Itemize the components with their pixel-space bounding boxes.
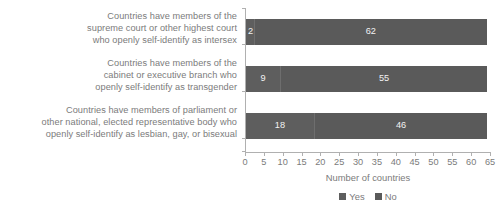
x-axis-tick-label: 20 bbox=[315, 157, 325, 167]
x-axis-tick bbox=[490, 152, 491, 156]
bar-segment-yes[interactable]: 9 bbox=[246, 66, 280, 92]
bar-value-label: 18 bbox=[275, 121, 285, 130]
x-axis-tick-label: 0 bbox=[242, 157, 247, 167]
category-label-line: Countries have members of the bbox=[0, 57, 237, 69]
x-axis-tick-label: 10 bbox=[278, 157, 288, 167]
y-axis-tick bbox=[242, 138, 245, 139]
x-axis-tick-label: 50 bbox=[428, 157, 438, 167]
x-axis-tick bbox=[245, 152, 246, 156]
x-axis-tick bbox=[302, 152, 303, 156]
category-label: Countries have members of parliament oro… bbox=[0, 104, 237, 141]
category-label-line: Countries have members of parliament or bbox=[0, 104, 237, 116]
legend-item-yes[interactable]: Yes bbox=[339, 192, 364, 201]
category-label-line: who openly self-identify as intersex bbox=[0, 34, 237, 46]
x-axis-tick bbox=[320, 152, 321, 156]
x-axis-tick bbox=[264, 152, 265, 156]
legend-item-no[interactable]: No bbox=[375, 192, 397, 201]
y-axis-tick bbox=[242, 44, 245, 45]
x-axis-tick bbox=[433, 152, 434, 156]
x-axis-tick-label: 60 bbox=[466, 157, 476, 167]
legend-label: No bbox=[385, 192, 397, 201]
bar-segment-no[interactable]: 46 bbox=[314, 113, 487, 139]
category-label-line: openly self-identify as transgender bbox=[0, 81, 237, 93]
x-axis-tick-label: 40 bbox=[391, 157, 401, 167]
bar-row[interactable]: 1846 bbox=[246, 113, 487, 139]
category-label: Countries have members of thesupreme cou… bbox=[0, 10, 237, 47]
x-axis-tick-label: 55 bbox=[447, 157, 457, 167]
x-axis-tick bbox=[358, 152, 359, 156]
x-axis-tick bbox=[283, 152, 284, 156]
x-axis-tick bbox=[452, 152, 453, 156]
bar-value-label: 46 bbox=[396, 121, 406, 130]
bar-value-label: 55 bbox=[379, 74, 389, 83]
category-label-line: Countries have members of the bbox=[0, 10, 237, 22]
x-axis-tick-label: 5 bbox=[261, 157, 266, 167]
y-axis-tick bbox=[242, 91, 245, 92]
x-axis-tick bbox=[396, 152, 397, 156]
category-label-line: other national, elected representative b… bbox=[0, 116, 237, 128]
x-axis-title: Number of countries bbox=[245, 172, 491, 183]
category-axis-labels: Countries have members of thesupreme cou… bbox=[0, 0, 237, 152]
bar-segment-no[interactable]: 55 bbox=[280, 66, 487, 92]
y-axis-tick bbox=[242, 8, 245, 9]
x-axis-tick bbox=[339, 152, 340, 156]
x-axis-tick-label: 25 bbox=[334, 157, 344, 167]
x-axis-tick bbox=[415, 152, 416, 156]
chart-legend: YesNo bbox=[245, 192, 491, 201]
stacked-bar-chart: Countries have members of thesupreme cou… bbox=[0, 0, 500, 220]
bar-value-label: 62 bbox=[366, 27, 376, 36]
bar-segment-no[interactable]: 62 bbox=[254, 19, 488, 45]
bar-value-label: 2 bbox=[248, 27, 253, 36]
x-axis-tick bbox=[471, 152, 472, 156]
bar-segment-yes[interactable]: 18 bbox=[246, 113, 314, 139]
category-label-line: openly self-identify as lesbian, gay, or… bbox=[0, 128, 237, 140]
bar-segment-yes[interactable]: 2 bbox=[246, 19, 254, 45]
x-axis-tick-label: 15 bbox=[296, 157, 306, 167]
x-axis-tick-label: 45 bbox=[409, 157, 419, 167]
x-axis-tick-label: 35 bbox=[372, 157, 382, 167]
legend-swatch-icon bbox=[339, 193, 346, 200]
category-label: Countries have members of thecabinet or … bbox=[0, 57, 237, 94]
plot-area: 2629551846 bbox=[245, 8, 490, 152]
category-label-line: cabinet or executive branch who bbox=[0, 69, 237, 81]
legend-label: Yes bbox=[349, 192, 364, 201]
category-label-line: supreme court or other highest court bbox=[0, 22, 237, 34]
legend-swatch-icon bbox=[375, 193, 382, 200]
bar-value-label: 9 bbox=[260, 74, 265, 83]
bar-row[interactable]: 262 bbox=[246, 19, 487, 45]
bar-row[interactable]: 955 bbox=[246, 66, 487, 92]
x-axis-tick bbox=[377, 152, 378, 156]
x-axis-tick-label: 30 bbox=[353, 157, 363, 167]
x-axis-tick-label: 65 bbox=[485, 157, 495, 167]
